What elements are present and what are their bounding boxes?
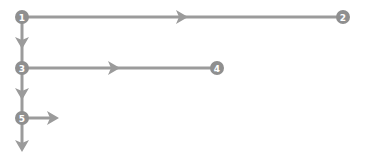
node-label: 2: [340, 13, 346, 23]
arrowheads: [15, 10, 188, 152]
edges: [22, 17, 343, 145]
node-label: 1: [19, 13, 25, 23]
node-1: 1: [15, 10, 29, 24]
node-5: 5: [15, 111, 29, 125]
node-3: 3: [15, 61, 29, 75]
node-4: 4: [210, 61, 224, 75]
node-label: 4: [214, 64, 220, 74]
node-label: 5: [19, 114, 25, 124]
node-label: 3: [19, 64, 25, 74]
node-2: 2: [336, 10, 350, 24]
flow-diagram: 1 2 3 4 5: [0, 0, 367, 159]
